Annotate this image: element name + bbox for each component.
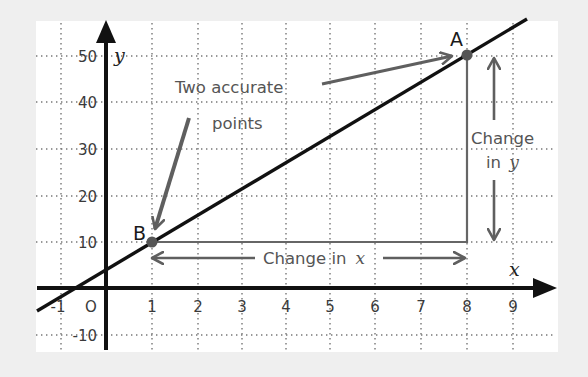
x-tick: 1 <box>147 298 157 316</box>
x-tick: 8 <box>462 298 472 316</box>
callout-arrow-to-b-icon <box>155 118 189 229</box>
x-tick: 9 <box>508 298 518 316</box>
callout-arrow-to-a-icon <box>322 56 452 84</box>
x-tick: 7 <box>416 298 426 316</box>
callout-text-line1: Two accurate <box>174 78 283 97</box>
y-tick: 40 <box>78 94 97 112</box>
graph-diagram: -1 O 1 2 3 4 5 6 7 8 9 50 40 30 20 10 -1… <box>0 0 588 377</box>
y-tick: 20 <box>78 188 97 206</box>
x-axis-label: x <box>509 258 520 280</box>
y-axis-label: y <box>113 44 125 66</box>
y-axis-arrowhead-icon <box>96 20 116 43</box>
x-tick: 4 <box>281 298 291 316</box>
y-tick: 10 <box>78 234 97 252</box>
y-tick: -10 <box>73 327 98 345</box>
x-axis-arrowhead-icon <box>533 278 557 298</box>
y-tick: 30 <box>78 141 97 159</box>
point-b-label: B <box>133 222 146 244</box>
change-y-label-line1: Change <box>471 129 534 148</box>
x-tick: 5 <box>325 298 335 316</box>
change-x-label: Change in x <box>263 248 366 268</box>
horizontal-gridlines <box>36 56 556 335</box>
change-y-label-line2: in y <box>486 152 519 172</box>
point-a-marker <box>462 50 473 61</box>
x-tick: 2 <box>193 298 203 316</box>
x-tick: 3 <box>237 298 247 316</box>
y-tick: 50 <box>78 48 97 66</box>
point-a-label: A <box>450 28 463 50</box>
point-b-marker <box>147 237 158 248</box>
graph-canvas: -1 O 1 2 3 4 5 6 7 8 9 50 40 30 20 10 -1… <box>0 0 588 377</box>
origin-label: O <box>85 298 97 316</box>
callout-text-line2: points <box>212 114 263 133</box>
x-tick: 6 <box>370 298 380 316</box>
